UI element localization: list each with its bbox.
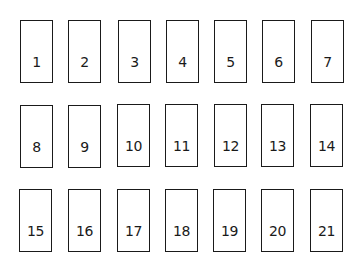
box-2: 2 xyxy=(68,20,101,83)
box-label: 16 xyxy=(69,223,100,239)
box-20: 20 xyxy=(261,189,294,252)
box-label: 6 xyxy=(263,54,294,70)
box-label: 19 xyxy=(214,223,245,239)
box-label: 7 xyxy=(312,54,343,70)
box-label: 8 xyxy=(21,139,52,155)
box-19: 19 xyxy=(213,189,246,252)
box-1: 1 xyxy=(20,20,53,83)
box-15: 15 xyxy=(19,189,52,252)
box-label: 11 xyxy=(166,138,197,154)
box-13: 13 xyxy=(261,104,294,167)
box-6: 6 xyxy=(262,20,295,83)
box-11: 11 xyxy=(165,104,198,167)
box-10: 10 xyxy=(117,104,150,167)
box-label: 14 xyxy=(311,138,342,154)
box-label: 15 xyxy=(20,223,51,239)
box-label: 5 xyxy=(215,54,246,70)
box-17: 17 xyxy=(117,189,150,252)
box-16: 16 xyxy=(68,189,101,252)
box-3: 3 xyxy=(118,20,151,83)
box-label: 10 xyxy=(118,138,149,154)
box-label: 2 xyxy=(69,54,100,70)
box-label: 13 xyxy=(262,138,293,154)
box-7: 7 xyxy=(311,20,344,83)
box-label: 9 xyxy=(69,139,100,155)
box-9: 9 xyxy=(68,105,101,168)
box-5: 5 xyxy=(214,20,247,83)
box-label: 12 xyxy=(215,138,246,154)
box-label: 17 xyxy=(118,223,149,239)
box-label: 21 xyxy=(311,223,342,239)
box-8: 8 xyxy=(20,105,53,168)
box-label: 3 xyxy=(119,54,150,70)
box-18: 18 xyxy=(165,189,198,252)
box-label: 20 xyxy=(262,223,293,239)
box-label: 4 xyxy=(167,54,198,70)
box-label: 18 xyxy=(166,223,197,239)
box-label: 1 xyxy=(21,54,52,70)
box-21: 21 xyxy=(310,189,343,252)
box-4: 4 xyxy=(166,20,199,83)
box-12: 12 xyxy=(214,104,247,167)
box-14: 14 xyxy=(310,104,343,167)
